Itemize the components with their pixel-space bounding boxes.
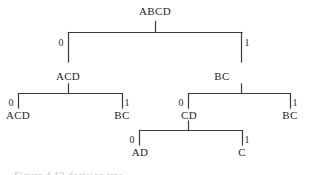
node-root: ABCD [139, 6, 171, 17]
edge-label-right-0: 0 [179, 98, 184, 108]
node-level3-cd: CD [181, 110, 197, 121]
node-leaf-c: C [238, 147, 246, 158]
figure-binary-tree: ABCD ACD BC ACD BC CD BC AD C 0 1 0 1 0 … [0, 0, 311, 175]
node-leaf-bc-left: BC [114, 110, 129, 121]
tree-edges-svg [0, 0, 311, 175]
figure-caption-partial: Figure 4.12 decision tree [14, 170, 123, 175]
edge-label-cd-1: 1 [245, 135, 250, 145]
node-level2-right: BC [214, 71, 229, 82]
edge-label-root-left: 0 [59, 38, 64, 48]
edge-label-right-1: 1 [293, 98, 298, 108]
node-leaf-acd: ACD [6, 110, 30, 121]
edge-label-cd-0: 0 [130, 135, 135, 145]
edge-label-left-1: 1 [125, 98, 130, 108]
edge-label-left-0: 0 [9, 98, 14, 108]
edge-label-root-right: 1 [245, 38, 250, 48]
node-level2-left: ACD [56, 71, 80, 82]
node-leaf-bc-right: BC [282, 110, 297, 121]
node-leaf-ad: AD [132, 147, 149, 158]
